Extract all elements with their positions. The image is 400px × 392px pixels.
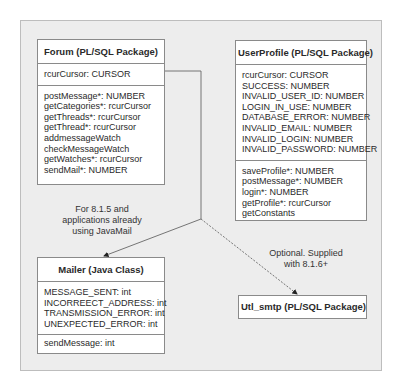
attribute: INVALID_LOGIN: NUMBER xyxy=(242,134,361,145)
attribute: INVALID_PASSWORD: NUMBER xyxy=(242,144,361,155)
operation: getConstants xyxy=(242,208,361,219)
forum-class-box: Forum (PL/SQL Package) rcurCursor: CURSO… xyxy=(37,39,165,185)
attribute: rcurCursor: CURSOR xyxy=(242,70,361,81)
operation: getWatches*: rcurCursor xyxy=(44,154,159,165)
operation: addmessageWatch xyxy=(44,133,159,144)
attribute: SUCCESS: NUMBER xyxy=(242,81,361,92)
mailer-title: Mailer (Java Class) xyxy=(38,258,164,282)
utl-smtp-class-box: Utl_smtp (PL/SQL Package) xyxy=(238,295,367,319)
attribute: TRANSMISSION_ERROR: int xyxy=(44,308,159,319)
note-line: applications already xyxy=(62,215,142,226)
attribute: INVALID_EMAIL: NUMBER xyxy=(242,123,361,134)
forum-title: Forum (PL/SQL Package) xyxy=(38,40,164,64)
userprofile-title: UserProfile (PL/SQL Package) xyxy=(236,41,366,65)
operation: getThread*: rcurCursor xyxy=(44,122,159,133)
attribute: rcurCursor: CURSOR xyxy=(44,69,159,80)
forum-attributes: rcurCursor: CURSOR xyxy=(38,64,164,85)
mailer-note: For 8.1.5 and applications already using… xyxy=(62,204,142,237)
operation: login*: NUMBER xyxy=(242,187,361,198)
operation: sendMessage: int xyxy=(44,338,159,349)
note-line: using JavaMail xyxy=(62,226,142,237)
operation: getThreads*: rcurCursor xyxy=(44,112,159,123)
operation: saveProfile*: NUMBER xyxy=(242,166,361,177)
mailer-operations: sendMessage: int xyxy=(38,334,164,354)
forum-operations: postMessage*: NUMBER getCategories*: rcu… xyxy=(38,85,164,181)
attribute: INVALID_USER_ID: NUMBER xyxy=(242,91,361,102)
userprofile-class-box: UserProfile (PL/SQL Package) rcurCursor:… xyxy=(235,40,367,221)
mailer-attributes: MESSAGE_SENT: int INCORREECT_ADDRESS: in… xyxy=(38,282,164,334)
mailer-class-box: Mailer (Java Class) MESSAGE_SENT: int IN… xyxy=(37,257,165,354)
operation: postMessage*: NUMBER xyxy=(242,176,361,187)
operation: getProfile*: rcurCursor xyxy=(242,198,361,209)
note-line: For 8.1.5 and xyxy=(62,204,142,215)
operation: checkMessageWatch xyxy=(44,144,159,155)
utl-smtp-title: Utl_smtp (PL/SQL Package) xyxy=(239,296,366,318)
note-line: with 8.1.6+ xyxy=(262,259,350,270)
forum-connector xyxy=(164,71,201,219)
attribute: MESSAGE_SENT: int xyxy=(44,287,159,298)
operation: postMessage*: NUMBER xyxy=(44,91,159,102)
userprofile-attributes: rcurCursor: CURSOR SUCCESS: NUMBER INVAL… xyxy=(236,65,366,160)
utl-smtp-note: Optional. Supplied with 8.1.6+ xyxy=(262,248,350,270)
attribute: UNEXPECTED_ERROR: int xyxy=(44,319,159,330)
operation: sendMail*: NUMBER xyxy=(44,165,159,176)
note-line: Optional. Supplied xyxy=(262,248,350,259)
userprofile-operations: saveProfile*: NUMBER postMessage*: NUMBE… xyxy=(236,160,366,224)
operation: getCategories*: rcurCursor xyxy=(44,101,159,112)
attribute: INCORREECT_ADDRESS: int xyxy=(44,298,159,309)
attribute: DATABASE_ERROR: NUMBER xyxy=(242,112,361,123)
attribute: LOGIN_IN_USE: NUMBER xyxy=(242,102,361,113)
